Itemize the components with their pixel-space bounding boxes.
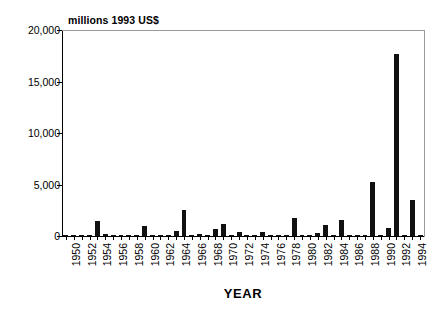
x-tick-mark [74,236,75,240]
x-tick-mark [412,236,413,240]
x-tick-label: 1978 [290,243,302,266]
y-tick-label: 15,000 [0,76,60,88]
x-tick-label: 1952 [86,243,98,266]
y-tick-label: 0 [0,230,60,242]
x-tick-mark [381,236,382,240]
x-tick-label: 1956 [117,243,129,266]
x-tick-mark [137,236,138,240]
bar [363,235,368,236]
bar [315,233,320,236]
bar [276,235,281,236]
x-tick-label: 1962 [164,243,176,266]
bar [197,234,202,236]
x-tick-mark [153,236,154,240]
bar [158,235,163,236]
x-tick-mark [184,236,185,240]
x-tick-mark [278,236,279,240]
x-tick-mark [105,236,106,240]
x-tick-label: 1974 [259,243,271,266]
x-axis-title: YEAR [62,286,424,301]
x-tick-mark [239,236,240,240]
bar [260,232,265,236]
bar [229,235,234,236]
x-tick-mark [396,236,397,240]
bar [244,235,249,236]
x-tick-mark [294,236,295,240]
x-tick-mark [160,236,161,240]
bar [126,235,131,236]
x-tick-mark [145,236,146,240]
x-tick-mark [66,236,67,240]
x-tick-mark [247,236,248,240]
x-tick-mark [286,236,287,240]
x-tick-mark [200,236,201,240]
x-tick-mark [334,236,335,240]
bar [347,235,352,236]
y-tick-label: 5,000 [0,179,60,191]
x-tick-label: 1968 [212,243,224,266]
x-tick-mark [373,236,374,240]
bar [370,182,375,236]
x-tick-mark [357,236,358,240]
y-tick-label: 10,000 [0,127,60,139]
x-tick-mark [129,236,130,240]
x-tick-mark [97,236,98,240]
x-tick-mark [310,236,311,240]
bar [79,235,84,236]
bar [339,220,344,236]
x-tick-mark [389,236,390,240]
x-tick-label: 1950 [70,243,82,266]
x-tick-mark [223,236,224,240]
x-tick-label: 1994 [416,243,428,266]
bar [237,232,242,236]
x-tick-label: 1958 [133,243,145,266]
x-tick-mark [341,236,342,240]
x-tick-label: 1972 [243,243,255,266]
bar [134,235,139,236]
bar [292,218,297,236]
x-tick-mark [231,236,232,240]
x-tick-label: 1992 [400,243,412,266]
x-tick-mark [365,236,366,240]
bar [87,235,92,236]
x-tick-label: 1982 [322,243,334,266]
x-tick-mark [326,236,327,240]
x-tick-mark [121,236,122,240]
x-tick-label: 1954 [101,243,113,266]
bar [394,54,399,236]
x-tick-mark [215,236,216,240]
bar [410,200,415,236]
bar [323,225,328,236]
bar [252,235,257,236]
x-tick-label: 1966 [196,243,208,266]
x-tick-mark [208,236,209,240]
x-tick-mark [168,236,169,240]
x-tick-mark [192,236,193,240]
bar [103,234,108,236]
bar [111,235,116,236]
x-tick-mark [404,236,405,240]
bar [166,235,171,236]
x-tick-label: 1990 [385,243,397,266]
bar-chart-figure: millions 1993 US$ 05,00010,00015,00020,0… [0,0,446,309]
x-tick-mark [176,236,177,240]
x-tick-mark [82,236,83,240]
x-tick-mark [318,236,319,240]
x-tick-mark [302,236,303,240]
bar [71,235,76,236]
x-tick-mark [420,236,421,240]
x-tick-mark [90,236,91,240]
bar [189,235,194,236]
bar [307,235,312,236]
x-tick-mark [263,236,264,240]
bar [418,235,423,236]
bar [213,229,218,236]
x-tick-label: 1970 [227,243,239,266]
x-tick-label: 1984 [338,243,350,266]
bar [402,235,407,236]
chart-title: millions 1993 US$ [68,14,159,26]
x-tick-label: 1986 [353,243,365,266]
x-tick-label: 1988 [369,243,381,266]
bar [284,235,289,236]
bar [386,228,391,236]
